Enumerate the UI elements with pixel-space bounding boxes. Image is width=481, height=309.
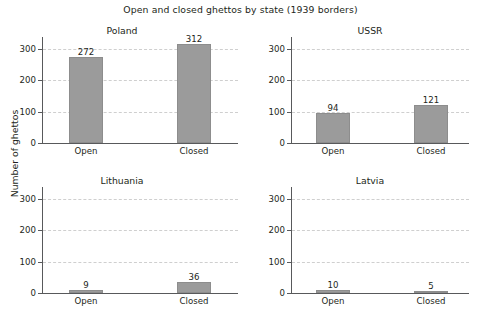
panel-title-latvia: Latvia: [257, 175, 481, 186]
tick-mark: [38, 80, 42, 81]
tick-mark: [38, 230, 42, 231]
y-tick-label: 300: [20, 194, 36, 204]
x-tick-label: Open: [322, 146, 345, 156]
y-tick-label: 200: [269, 225, 285, 235]
y-tick-label: 0: [31, 288, 36, 298]
x-tick-label: Open: [75, 146, 98, 156]
plot-area-poland: 0 100 200 300 272 Open 312: [42, 40, 238, 144]
tick-mark: [287, 80, 291, 81]
x-axis-line: [291, 293, 469, 294]
x-tick-label: Open: [75, 296, 98, 306]
x-tick-label: Open: [322, 296, 345, 306]
chart-title: Open and closed ghettos by state (1939 b…: [0, 4, 481, 15]
bar-ussr-closed[interactable]: 121 Closed: [414, 105, 448, 143]
tick-mark: [287, 230, 291, 231]
x-axis-line: [42, 143, 238, 144]
y-tick-label: 300: [269, 194, 285, 204]
tick-mark: [38, 262, 42, 263]
y-tick-label: 200: [20, 225, 36, 235]
tick-mark: [38, 112, 42, 113]
gridline: [292, 80, 469, 81]
tick-mark: [38, 143, 42, 144]
y-tick-label: 200: [269, 75, 285, 85]
tick-mark: [38, 199, 42, 200]
bar-value-label: 10: [328, 280, 339, 290]
y-tick-label: 100: [20, 107, 36, 117]
tick-mark: [287, 199, 291, 200]
gridline: [43, 199, 238, 200]
gridline: [43, 262, 238, 263]
gridline: [43, 230, 238, 231]
y-tick-label: 0: [31, 138, 36, 148]
x-axis-line: [291, 143, 469, 144]
panel-title-poland: Poland: [2, 25, 242, 36]
x-tick-label: Closed: [180, 146, 209, 156]
x-tick-label: Closed: [180, 296, 209, 306]
y-tick-label: 100: [269, 107, 285, 117]
tick-mark: [38, 293, 42, 294]
bar-value-label: 272: [78, 47, 94, 57]
y-axis-line: [42, 37, 43, 144]
tick-mark: [38, 49, 42, 50]
bar-value-label: 312: [186, 34, 202, 44]
x-axis-line: [42, 293, 238, 294]
bar-value-label: 94: [328, 103, 339, 113]
x-tick-label: Closed: [417, 146, 446, 156]
bar-latvia-open[interactable]: 10 Open: [316, 290, 350, 293]
plot-area-ussr: 0 100 200 300 94 Open 121: [291, 40, 469, 144]
panel-poland: Poland 0 100 200 300: [4, 26, 244, 158]
y-tick-label: 100: [20, 257, 36, 267]
y-tick-label: 200: [20, 75, 36, 85]
panel-title-ussr: USSR: [257, 25, 481, 36]
tick-mark: [287, 143, 291, 144]
tick-mark: [287, 262, 291, 263]
panel-title-lithuania: Lithuania: [2, 175, 242, 186]
y-tick-label: 100: [269, 257, 285, 267]
bar-value-label: 36: [189, 272, 200, 282]
tick-mark: [287, 49, 291, 50]
bar-poland-open[interactable]: 272 Open: [69, 57, 103, 144]
bar-ussr-open[interactable]: 94 Open: [316, 113, 350, 143]
bar-poland-closed[interactable]: 312 Closed: [177, 44, 211, 143]
y-axis-line: [42, 187, 43, 294]
y-tick-label: 0: [280, 138, 285, 148]
plot-area-latvia: 0 100 200 300 10 Open 5: [291, 190, 469, 294]
y-axis-line: [291, 37, 292, 144]
bar-value-label: 9: [83, 280, 88, 290]
y-tick-label: 300: [20, 44, 36, 54]
panel-ussr: USSR 0 100 200 300: [253, 26, 479, 158]
bar-value-label: 5: [428, 281, 433, 291]
chart-figure: Open and closed ghettos by state (1939 b…: [0, 0, 481, 309]
panel-latvia: Latvia 0 100 200 300: [253, 176, 479, 308]
bar-latvia-closed[interactable]: 5 Closed: [414, 291, 448, 293]
bar-lithuania-open[interactable]: 9 Open: [69, 290, 103, 293]
tick-mark: [287, 293, 291, 294]
gridline: [292, 262, 469, 263]
y-tick-label: 0: [280, 288, 285, 298]
gridline: [292, 230, 469, 231]
plot-area-lithuania: 0 100 200 300 9 Open 36: [42, 190, 238, 294]
gridline: [292, 199, 469, 200]
bar-lithuania-closed[interactable]: 36 Closed: [177, 282, 211, 293]
y-axis-line: [291, 187, 292, 294]
bar-value-label: 121: [423, 95, 439, 105]
gridline: [292, 49, 469, 50]
tick-mark: [287, 112, 291, 113]
x-tick-label: Closed: [417, 296, 446, 306]
panel-lithuania: Lithuania 0 100 200 300: [4, 176, 244, 308]
y-tick-label: 300: [269, 44, 285, 54]
